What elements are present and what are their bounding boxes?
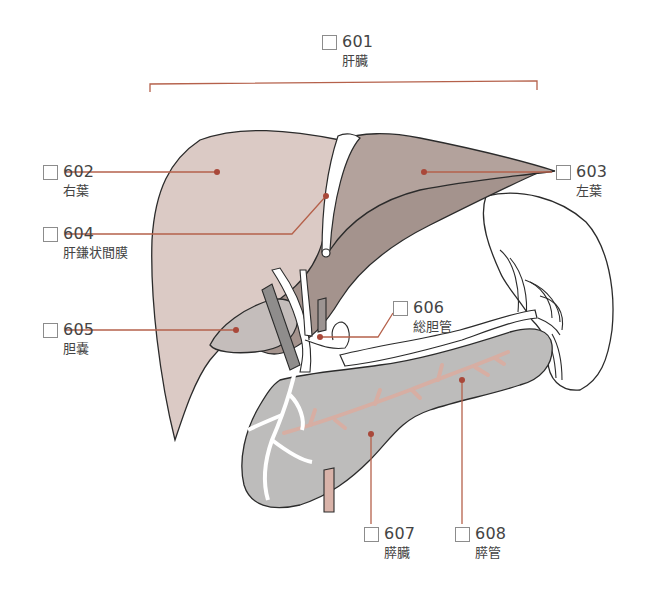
label-605-gallbladder: 605 胆嚢 xyxy=(43,322,94,355)
label-name: 膵臓 xyxy=(384,546,415,559)
checkbox-601[interactable] xyxy=(322,35,337,50)
label-name: 膵管 xyxy=(475,546,506,559)
label-604-falciform-ligament: 604 肝鎌状間膜 xyxy=(43,226,128,259)
liver-bracket xyxy=(150,81,537,92)
label-number: 604 xyxy=(63,226,94,242)
label-name: 左葉 xyxy=(576,184,607,197)
label-number: 603 xyxy=(576,164,607,180)
checkbox-603[interactable] xyxy=(556,165,571,180)
checkbox-608[interactable] xyxy=(455,527,470,542)
label-603-left-lobe: 603 左葉 xyxy=(556,164,607,197)
hepatic-artery xyxy=(318,298,326,332)
checkbox-602[interactable] xyxy=(43,165,58,180)
label-number: 608 xyxy=(475,526,506,542)
label-608-pancreatic-duct: 608 膵管 xyxy=(455,526,506,559)
checkbox-605[interactable] xyxy=(43,323,58,338)
anatomy-diagram xyxy=(0,0,647,592)
label-name: 肝臓 xyxy=(342,54,373,67)
label-606-common-bile-duct: 606 総胆管 xyxy=(393,300,452,333)
label-number: 606 xyxy=(413,300,444,316)
label-602-right-lobe: 602 右葉 xyxy=(43,164,94,197)
checkbox-604[interactable] xyxy=(43,227,58,242)
label-number: 602 xyxy=(63,164,94,180)
label-name: 胆嚢 xyxy=(63,342,94,355)
checkbox-606[interactable] xyxy=(393,301,408,316)
checkbox-607[interactable] xyxy=(364,527,379,542)
label-number: 601 xyxy=(342,34,373,50)
label-name: 総胆管 xyxy=(413,320,452,333)
aorta-segment xyxy=(324,468,334,512)
label-name: 肝鎌状間膜 xyxy=(63,246,128,259)
label-name: 右葉 xyxy=(63,184,94,197)
label-601-liver: 601 肝臓 xyxy=(322,34,373,67)
label-number: 605 xyxy=(63,322,94,338)
label-number: 607 xyxy=(384,526,415,542)
label-607-pancreas: 607 膵臓 xyxy=(364,526,415,559)
